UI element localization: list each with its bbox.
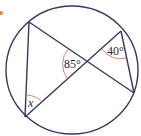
angle-label-40: 40° — [107, 44, 124, 58]
cut-off-marker — [0, 11, 3, 15]
angle-label-x: x — [27, 96, 34, 110]
angle-label-85: 85° — [64, 57, 81, 71]
circle-angle-diagram: 85° 40° x — [0, 0, 141, 136]
segment-c-d — [121, 31, 134, 93]
